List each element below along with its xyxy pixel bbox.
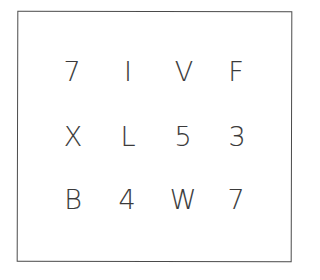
grid-cell-r1-c3: V xyxy=(164,55,204,89)
grid-cell-r3-c4: 7 xyxy=(216,183,256,217)
grid-cell-r3-c2: 4 xyxy=(107,183,147,217)
grid-cell-r3-c1: B xyxy=(53,183,93,217)
grid-cell-r1-c4: F xyxy=(216,55,256,89)
grid-cell-r1-c2: I xyxy=(108,55,148,89)
grid-cell-r1-c1: 7 xyxy=(52,55,92,89)
grid-cell-r2-c2: L xyxy=(108,120,148,154)
grid-cell-r2-c1: X xyxy=(53,120,93,154)
grid-cell-r3-c3: W xyxy=(163,183,203,217)
grid-cell-r2-c4: 3 xyxy=(217,120,257,154)
grid-cell-r2-c3: 5 xyxy=(163,120,203,154)
